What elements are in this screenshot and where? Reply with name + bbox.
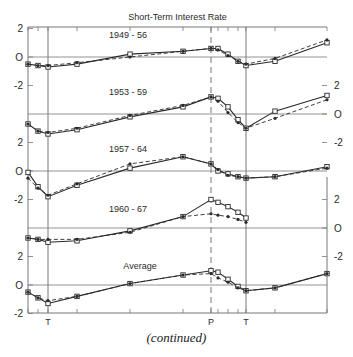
filled-marker [36,187,39,190]
y-tick-label: -2 [14,80,23,91]
open-square-marker [226,105,230,109]
filled-marker [75,61,78,64]
caption: (continued) [0,330,353,346]
filled-marker [216,276,219,279]
filled-marker [236,218,239,221]
filled-marker [128,282,131,285]
dashed-series-line [28,157,327,195]
filled-marker [36,238,39,241]
filled-marker [216,168,219,171]
filled-marker [26,122,29,125]
filled-marker [216,48,219,51]
filled-marker [273,57,276,60]
filled-marker [244,177,247,180]
interest-rate-chart: Short-Term Interest RateTPT2O-21949 - 56… [0,0,353,340]
filled-marker [244,63,247,66]
filled-marker [181,155,184,158]
filled-marker [216,100,219,103]
y-tick-label: O [334,223,342,234]
filled-marker [36,130,39,133]
filled-marker [46,64,49,67]
filled-marker [209,272,212,275]
filled-marker [75,182,78,185]
y-tick-label: 2 [17,23,23,34]
open-square-marker [325,93,329,97]
filled-marker [236,60,239,63]
y-tick-label: 2 [17,251,23,262]
filled-marker [216,214,219,217]
filled-marker [226,281,229,284]
filled-marker [128,162,131,165]
filled-marker [273,175,276,178]
open-square-marker [216,200,220,204]
panel-label: 1960 - 67 [109,204,147,214]
filled-marker [26,291,29,294]
filled-marker [181,273,184,276]
filled-marker [75,295,78,298]
dashed-series-line [28,97,327,133]
solid-series-line [28,43,327,67]
filled-marker [75,238,78,241]
y-tick-label: -2 [14,308,23,319]
filled-marker [46,194,49,197]
filled-marker [244,127,247,130]
y-tick-label: -2 [14,194,23,205]
y-tick-label: O [15,280,23,291]
filled-marker [26,63,29,66]
y-tick-label: 2 [17,137,23,148]
open-square-marker [216,270,220,274]
open-square-marker [26,170,30,174]
open-square-marker [244,216,248,220]
y-tick-label: O [15,52,23,63]
dashed-series-line [28,40,327,66]
chart-title: Short-Term Interest Rate [128,12,227,22]
trough-label: T [243,317,249,327]
filled-marker [128,55,131,58]
panel-label: 1949 - 56 [109,30,147,40]
filled-marker [26,177,29,180]
panel-label: Average [123,261,156,271]
solid-series-line [28,95,327,133]
filled-marker [325,98,328,101]
y-tick-label: -2 [334,251,343,262]
filled-marker [36,64,39,67]
trough-label: T [45,317,51,327]
y-tick-label: 2 [334,80,340,91]
filled-marker [236,175,239,178]
filled-marker [325,272,328,275]
open-square-marker [273,109,277,113]
filled-marker [244,289,247,292]
filled-marker [181,50,184,53]
filled-marker [236,286,239,289]
filled-marker [209,47,212,50]
filled-marker [236,121,239,124]
filled-marker [209,162,212,165]
filled-marker [325,167,328,170]
filled-marker [226,215,229,218]
filled-marker [244,221,247,224]
filled-marker [325,38,328,41]
open-square-marker [128,166,132,170]
filled-marker [36,296,39,299]
y-tick-label: -2 [334,137,343,148]
dashed-series-line [28,214,246,240]
solid-series-line [28,157,327,197]
filled-marker [181,215,184,218]
open-square-marker [209,197,213,201]
panel-label: 1953 - 59 [109,87,147,97]
filled-marker [226,54,229,57]
open-square-marker [236,210,240,214]
filled-marker [226,174,229,177]
filled-marker [273,286,276,289]
filled-marker [226,111,229,114]
open-square-marker [226,204,230,208]
peak-label: P [208,317,214,327]
filled-marker [46,299,49,302]
panel-label: 1957 - 64 [109,144,147,154]
filled-marker [209,95,212,98]
y-tick-label: O [334,109,342,120]
filled-marker [46,131,49,134]
filled-marker [273,117,276,120]
filled-marker [181,104,184,107]
filled-marker [26,236,29,239]
